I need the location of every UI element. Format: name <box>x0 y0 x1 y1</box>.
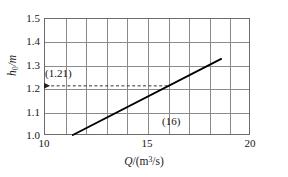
y-tick-label: 1.2 <box>14 83 40 94</box>
x-axis-title: Q/(m3/s) <box>0 154 288 167</box>
chart-figure: 1.51.41.31.21.11.0 101520 h0/m Q/(m3/s) … <box>0 0 288 177</box>
y-axis-units: /m <box>6 55 18 67</box>
head-value-annotation: (1.21) <box>45 68 72 79</box>
y-tick-label: 1.4 <box>14 36 40 47</box>
y-axis-subscript: 0 <box>11 66 20 70</box>
x-tick-label: 20 <box>245 138 256 149</box>
y-axis-title: h0/m <box>6 55 22 76</box>
x-tick-label: 15 <box>142 138 153 149</box>
x-axis-units-head: /(m <box>132 155 148 167</box>
x-axis-units-tail: /s) <box>152 155 164 167</box>
y-tick-label: 1.0 <box>14 130 40 141</box>
plot-svg <box>44 18 250 135</box>
y-tick-label: 1.5 <box>14 13 40 24</box>
y-axis-symbol: h <box>6 70 18 76</box>
y-tick-label: 1.1 <box>14 106 40 117</box>
data-series-line <box>73 59 221 135</box>
x-tick-label: 10 <box>39 138 50 149</box>
chart-overlay: (1.21) (16) <box>44 18 250 135</box>
discharge-value-annotation: (16) <box>162 116 180 127</box>
